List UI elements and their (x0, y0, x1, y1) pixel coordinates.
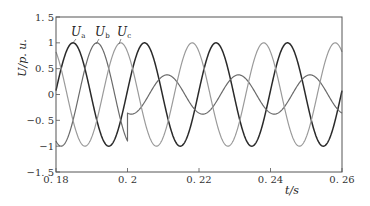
y-tick-label: −0. 5 (27, 115, 54, 126)
series-uc-line (56, 43, 342, 146)
y-tick-label: 1. 5 (35, 12, 54, 23)
x-tick-label: 0. 18 (43, 174, 68, 185)
x-axis-ticks: 0. 180. 20. 220. 240. 26 (43, 168, 354, 185)
y-axis-ticks: 1. 510. 50−0. 5−1−1. 5 (27, 12, 60, 178)
x-tick-label: 0. 2 (118, 174, 137, 185)
plot-frame (56, 17, 342, 172)
y-axis-label-text: U/p. u. (16, 39, 29, 77)
x-axis-label-text: t/s (285, 184, 299, 197)
x-tick-label: 0. 22 (186, 174, 211, 185)
series-ua-line (56, 43, 342, 146)
y-tick-label: 1 (48, 37, 54, 48)
legend-ub: Ub (95, 25, 110, 40)
legend-ua: Ua (71, 25, 85, 40)
legend-uc: Uc (117, 25, 131, 40)
x-axis-label: t/s (285, 184, 299, 197)
y-tick-label: 0 (48, 89, 54, 100)
series-ub-line (56, 43, 342, 146)
y-tick-label: 0. 5 (35, 63, 54, 74)
y-tick-label: −1 (39, 141, 54, 152)
legend: Ua Ub Uc (71, 25, 131, 44)
x-tick-label: 0. 24 (258, 174, 283, 185)
x-tick-label: 0. 26 (329, 174, 354, 185)
y-axis-label: U/p. u. (16, 39, 29, 77)
plot-curves (56, 43, 342, 146)
voltage-waveform-chart: 1. 510. 50−0. 5−1−1. 5 0. 180. 20. 220. … (0, 0, 370, 206)
